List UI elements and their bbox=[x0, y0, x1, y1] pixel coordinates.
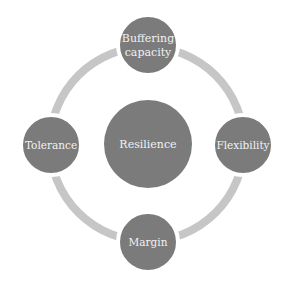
resilience-cycle-diagram: Buffering capacity Flexibility Margin To… bbox=[0, 0, 290, 287]
node-buffering-capacity-label-2: capacity bbox=[125, 46, 172, 59]
node-buffering-capacity-label-1: Buffering bbox=[122, 32, 174, 45]
node-tolerance: Tolerance bbox=[21, 115, 81, 175]
node-flexibility: Flexibility bbox=[213, 115, 273, 175]
node-margin: Margin bbox=[118, 212, 178, 272]
node-flexibility-label: Flexibility bbox=[216, 139, 269, 151]
node-tolerance-label: Tolerance bbox=[25, 139, 77, 151]
center-node-label: Resilience bbox=[119, 138, 176, 151]
node-margin-label: Margin bbox=[129, 236, 168, 248]
node-buffering-capacity: Buffering capacity bbox=[118, 15, 178, 75]
center-node-resilience: Resilience bbox=[104, 100, 192, 188]
